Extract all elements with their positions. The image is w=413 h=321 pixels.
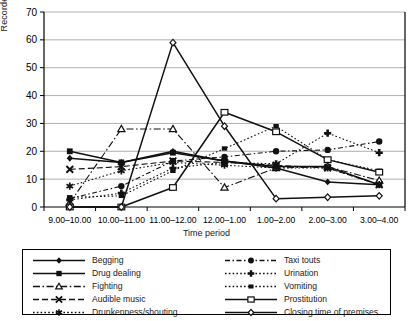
y-tick-label: 30	[26, 118, 38, 129]
legend-label: Prostitution	[284, 294, 327, 305]
legend-item: Fighting	[31, 281, 223, 292]
y-tick-label: 10	[26, 174, 38, 185]
x-tick-label: 1.00–2.00	[257, 215, 295, 225]
plot-area: 0102030405060709.00–10.0010.00–11.0011.0…	[0, 0, 413, 240]
legend-item: Drunkenness/shouting	[31, 307, 223, 318]
x-tick-label: 11.00–12.00	[149, 215, 196, 225]
chart-legend: Begging Drug dealing Fighting Audible mu…	[22, 249, 391, 315]
legend-item: Audible music	[31, 294, 223, 305]
line-chart: 0102030405060709.00–10.0010.00–11.0011.0…	[0, 0, 413, 240]
legend-key-drunkenness-shouting	[31, 307, 87, 318]
y-tick-label: 20	[26, 146, 38, 157]
legend-item: Closing time of premises	[223, 307, 378, 318]
legend-label: Fighting	[92, 281, 123, 292]
legend-label: Drug dealing	[92, 268, 141, 279]
legend-key-prostitution	[223, 294, 279, 305]
y-axis-title: Recorded incidents	[0, 0, 9, 52]
legend-label: Urination	[284, 268, 318, 279]
x-tick-label: 9.00–10.00	[48, 215, 91, 225]
legend-label: Begging	[92, 255, 124, 266]
legend-key-drug-dealing	[31, 268, 87, 279]
legend-column-left: Begging Drug dealing Fighting Audible mu…	[31, 255, 223, 314]
legend-item: Taxi touts	[223, 255, 378, 266]
y-tick-label: 0	[31, 202, 37, 213]
legend-key-urination	[223, 268, 279, 279]
legend-key-audible-music	[31, 294, 87, 305]
legend-item: Urination	[223, 268, 378, 279]
legend-item: Drug dealing	[31, 268, 223, 279]
chart-page: 0102030405060709.00–10.0010.00–11.0011.0…	[0, 0, 413, 321]
legend-item: Prostitution	[223, 294, 378, 305]
y-tick-label: 50	[26, 62, 38, 73]
legend-label: Drunkenness/shouting	[92, 307, 178, 318]
y-tick-label: 70	[26, 7, 38, 18]
legend-item: Vomiting	[223, 281, 378, 292]
x-tick-label: 3.00–4.00	[360, 215, 398, 225]
legend-key-closing-time	[223, 307, 279, 318]
x-tick-label: 2.00–3.00	[309, 215, 347, 225]
legend-label: Closing time of premises	[284, 307, 378, 318]
legend-label: Taxi touts	[284, 255, 320, 266]
legend-key-taxi-touts	[223, 255, 279, 266]
y-tick-label: 40	[26, 90, 38, 101]
x-axis-title: Time period	[0, 228, 413, 238]
x-tick-label: 12.00–1.00	[203, 215, 246, 225]
x-tick-label: 10.00–11.00	[98, 215, 145, 225]
legend-key-fighting	[31, 281, 87, 292]
legend-key-vomiting	[223, 281, 279, 292]
legend-label: Vomiting	[284, 281, 317, 292]
legend-column-right: Taxi touts Urination Vomiting Prostituti…	[223, 255, 378, 314]
y-tick-label: 60	[26, 34, 38, 45]
legend-item: Begging	[31, 255, 223, 266]
legend-key-begging	[31, 255, 87, 266]
legend-label: Audible music	[92, 294, 146, 305]
